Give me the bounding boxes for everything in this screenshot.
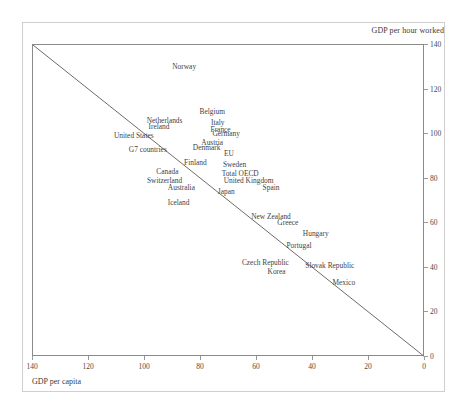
y-tick-label: 20 bbox=[430, 307, 438, 316]
x-tick-label: 120 bbox=[82, 362, 93, 371]
x-tick-label: 20 bbox=[364, 362, 372, 371]
x-tick-mark bbox=[312, 356, 313, 360]
y-tick-mark bbox=[424, 89, 428, 90]
plot-area: NorwayBelgiumNetherlandsItalyIrelandFran… bbox=[32, 44, 424, 356]
x-tick-mark bbox=[32, 356, 33, 360]
point-label: Germany bbox=[212, 130, 240, 137]
point-label: Mexico bbox=[333, 280, 356, 287]
x-tick-mark bbox=[368, 356, 369, 360]
x-tick-mark bbox=[88, 356, 89, 360]
y-tick-mark bbox=[424, 356, 428, 357]
x-tick-label: 80 bbox=[196, 362, 204, 371]
point-label: Ireland bbox=[149, 124, 170, 131]
point-label: Belgium bbox=[199, 108, 224, 115]
y-tick-label: 60 bbox=[430, 218, 438, 227]
y-tick-label: 100 bbox=[430, 129, 441, 138]
plot-canvas bbox=[33, 45, 425, 357]
point-label: Canada bbox=[156, 168, 178, 175]
y-tick-mark bbox=[424, 133, 428, 134]
point-label: Australia bbox=[168, 184, 195, 191]
x-tick-mark bbox=[200, 356, 201, 360]
x-tick-label: 140 bbox=[26, 362, 37, 371]
point-label: Greece bbox=[277, 220, 298, 227]
point-label: G7 countries bbox=[129, 146, 167, 153]
y-axis-title: GDP per hour worked bbox=[372, 26, 444, 35]
x-tick-label: 60 bbox=[252, 362, 260, 371]
point-label: Denmark bbox=[193, 144, 221, 151]
x-tick-label: 40 bbox=[308, 362, 316, 371]
y-tick-mark bbox=[424, 44, 428, 45]
point-label: Czech Republic bbox=[242, 260, 289, 267]
y-tick-label: 140 bbox=[430, 40, 441, 49]
point-label: Japan bbox=[218, 188, 235, 195]
point-label: United States bbox=[114, 133, 154, 140]
y-tick-label: 80 bbox=[430, 173, 438, 182]
y-tick-label: 40 bbox=[430, 262, 438, 271]
point-label: Korea bbox=[268, 269, 286, 276]
point-label: Spain bbox=[263, 184, 280, 191]
point-label: EU bbox=[224, 150, 234, 157]
y-tick-mark bbox=[424, 267, 428, 268]
y-tick-label: 0 bbox=[430, 352, 434, 361]
point-label: Hungary bbox=[303, 231, 329, 238]
point-label: Slovak Republic bbox=[305, 262, 354, 269]
point-label: Iceland bbox=[168, 200, 190, 207]
point-label: Norway bbox=[172, 64, 196, 71]
point-label: Finland bbox=[184, 159, 207, 166]
y-tick-mark bbox=[424, 178, 428, 179]
x-axis-title: GDP per capita bbox=[32, 377, 81, 386]
x-tick-mark bbox=[256, 356, 257, 360]
chart-figure: GDP per hour worked GDP per capita Norwa… bbox=[0, 0, 466, 415]
y-tick-label: 120 bbox=[430, 84, 441, 93]
y-tick-mark bbox=[424, 222, 428, 223]
x-tick-mark bbox=[144, 356, 145, 360]
x-tick-label: 100 bbox=[138, 362, 149, 371]
point-label: Portugal bbox=[286, 242, 311, 249]
point-label: Sweden bbox=[223, 162, 246, 169]
x-tick-label: 0 bbox=[422, 362, 426, 371]
y-tick-mark bbox=[424, 311, 428, 312]
reference-line bbox=[33, 45, 425, 357]
